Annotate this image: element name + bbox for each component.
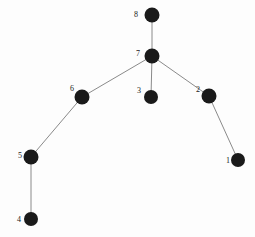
graph-node-label-1: 1 (226, 157, 230, 165)
graph-edge (31, 97, 82, 157)
graph-node-1[interactable] (231, 153, 245, 167)
graph-node-4[interactable] (24, 212, 38, 226)
graph-node-label-4: 4 (17, 216, 21, 224)
graph-node-8[interactable] (145, 8, 160, 23)
nodes-layer (24, 8, 246, 227)
graph-node-label-5: 5 (18, 152, 22, 160)
graph-node-label-6: 6 (70, 85, 74, 93)
graph-node-label-3: 3 (137, 87, 141, 95)
graph-node-label-2: 2 (196, 86, 200, 94)
graph-node-3[interactable] (144, 90, 158, 104)
graph-node-label-8: 8 (134, 11, 138, 19)
graph-node-6[interactable] (75, 90, 90, 105)
graph-node-7[interactable] (145, 49, 160, 64)
graph-canvas (0, 0, 255, 237)
edges-layer (31, 15, 238, 219)
graph-node-label-7: 7 (136, 50, 140, 58)
graph-node-2[interactable] (202, 89, 217, 104)
graph-figure: 12345678 (0, 0, 255, 237)
graph-edge (209, 96, 238, 160)
graph-node-5[interactable] (24, 150, 39, 165)
graph-edge (82, 56, 152, 97)
graph-edge (152, 56, 209, 96)
